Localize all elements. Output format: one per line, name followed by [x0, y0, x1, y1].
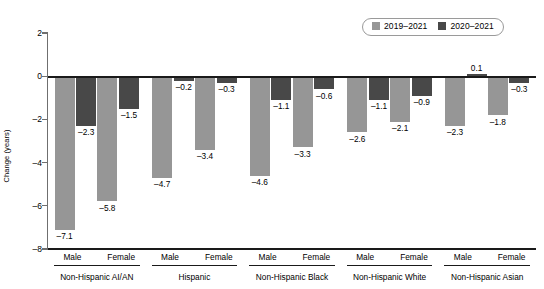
category-group: MaleFemaleNon-Hispanic Asian	[438, 250, 536, 288]
sex-label: Male	[243, 253, 292, 261]
bar-value-label: –1.1	[264, 102, 298, 110]
sex-label: Female	[97, 253, 146, 261]
bar	[412, 76, 432, 95]
bar	[250, 76, 270, 175]
bar-value-label: –4.7	[145, 180, 179, 188]
y-axis-tick-label: –4	[18, 158, 42, 167]
group-sex-labels: MaleFemale	[243, 250, 341, 265]
bar	[76, 76, 96, 126]
sex-label: Female	[194, 253, 243, 261]
legend-swatch-icon-2020-2021	[438, 22, 446, 30]
legend-label-2020-2021: 2020–2021	[450, 22, 493, 31]
bar-value-label: –1.8	[481, 118, 515, 126]
category-group: MaleFemaleNon-Hispanic White	[341, 250, 439, 288]
bar-value-label: –2.6	[340, 135, 374, 143]
legend: 2019–2021 2020–2021	[362, 18, 504, 36]
bar-value-label: –0.3	[210, 85, 244, 93]
sex-label: Female	[390, 253, 439, 261]
bar-value-label: –1.5	[112, 111, 146, 119]
group-name-label: Non-Hispanic White	[341, 266, 439, 281]
y-axis-tick-label: –8	[18, 245, 42, 254]
zero-baseline	[48, 76, 536, 78]
sex-label: Male	[146, 253, 195, 261]
bar-value-label: –2.3	[69, 128, 103, 136]
bar	[97, 76, 117, 201]
sex-label: Male	[341, 253, 390, 261]
plot-area: –7.1–2.3–5.8–1.5–4.7–0.2–3.4–0.3–4.6–1.1…	[48, 33, 536, 249]
sex-label: Female	[487, 253, 536, 261]
category-group: MaleFemaleHispanic	[146, 250, 244, 288]
group-sex-labels: MaleFemale	[146, 250, 244, 265]
y-axis-tick-label: 2	[18, 29, 42, 38]
bar-value-label: –2.1	[383, 124, 417, 132]
bar	[152, 76, 172, 178]
bar-value-label: –3.4	[188, 152, 222, 160]
y-axis-tick-label: –2	[18, 115, 42, 124]
legend-swatch-icon-2019-2021	[372, 22, 380, 30]
category-group: MaleFemaleNon-Hispanic Black	[243, 250, 341, 288]
bar-value-label: –4.6	[243, 178, 277, 186]
sex-label: Male	[48, 253, 97, 261]
bar	[488, 76, 508, 115]
bar-value-label: 0.1	[460, 64, 494, 72]
bar-value-label: –0.2	[167, 83, 201, 91]
bar	[119, 76, 139, 108]
sex-label: Female	[292, 253, 341, 261]
bar-value-label: –5.8	[90, 204, 124, 212]
bar	[314, 76, 334, 89]
bar-chart: Change (years) 20–2–4–6–8 –7.1–2.3–5.8–1…	[0, 0, 544, 289]
group-name-label: Non-Hispanic AI/AN	[48, 266, 146, 281]
y-axis-tick-label: –6	[18, 202, 42, 211]
bar	[55, 76, 75, 229]
bar	[369, 76, 389, 100]
category-axis-groups: MaleFemaleNon-Hispanic AI/ANMaleFemaleHi…	[48, 250, 536, 288]
y-axis-title: Change (years)	[2, 96, 11, 216]
bar-value-label: –0.6	[307, 92, 341, 100]
bar-value-label: –2.3	[438, 128, 472, 136]
legend-item-2019-2021: 2019–2021	[372, 22, 427, 31]
y-axis-tick-label: 0	[18, 72, 42, 81]
sex-label: Male	[438, 253, 487, 261]
category-group: MaleFemaleNon-Hispanic AI/AN	[48, 250, 146, 288]
bar-value-label: –3.3	[286, 150, 320, 158]
group-sex-labels: MaleFemale	[48, 250, 146, 265]
bar-value-label: –0.9	[405, 98, 439, 106]
legend-label-2019-2021: 2019–2021	[384, 22, 427, 31]
group-sex-labels: MaleFemale	[438, 250, 536, 265]
bar-value-label: –1.1	[362, 102, 396, 110]
group-name-label: Hispanic	[146, 266, 244, 281]
bar	[293, 76, 313, 147]
group-name-label: Non-Hispanic Asian	[438, 266, 536, 281]
bar-value-label: –0.3	[502, 85, 536, 93]
bar	[445, 76, 465, 126]
bar	[271, 76, 291, 100]
legend-item-2020-2021: 2020–2021	[438, 22, 493, 31]
bar-value-label: –7.1	[48, 232, 82, 240]
group-sex-labels: MaleFemale	[341, 250, 439, 265]
group-name-label: Non-Hispanic Black	[243, 266, 341, 281]
